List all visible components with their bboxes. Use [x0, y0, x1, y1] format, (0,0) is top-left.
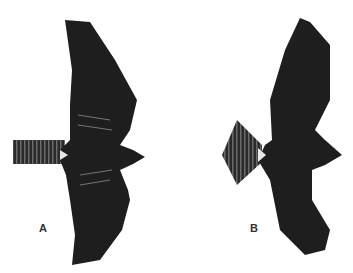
bird-illustrations	[0, 0, 353, 273]
bird-a-body	[60, 20, 145, 265]
bird-b-tail	[222, 120, 262, 185]
bird-b-figure	[222, 18, 342, 255]
panel-label-a: A	[39, 222, 47, 234]
panel-label-b: B	[250, 222, 258, 234]
bird-a-tail	[13, 140, 65, 164]
bird-a-figure	[13, 20, 145, 265]
bird-b-body	[258, 18, 342, 255]
illustration-canvas: A B	[0, 0, 353, 273]
